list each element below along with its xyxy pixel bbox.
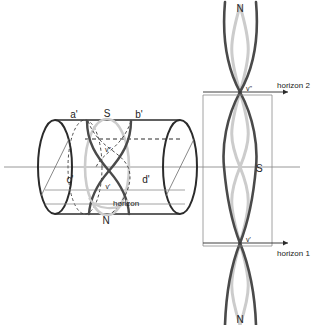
cylinder-label-a-prime: a' — [70, 109, 78, 120]
cylinder-label-b-prime: b' — [135, 109, 143, 120]
right-cap-chord — [166, 139, 194, 196]
horizon1-arrowhead-icon — [283, 241, 288, 246]
cylinder-label-v-prime: v' — [106, 183, 111, 190]
flat-label-horizon-1: horizon 1 — [277, 249, 310, 258]
horizon2-arrowhead-icon — [283, 90, 288, 95]
geometry-diagram: a' S b' c' d' v'' v' horizon N N S N v'' — [0, 0, 321, 325]
cylinder-label-d-prime: d' — [142, 174, 150, 185]
left-cap-chord — [41, 139, 69, 196]
flat-label-horizon-2: horizon 2 — [277, 81, 310, 90]
flat-label-v-prime: v' — [246, 236, 251, 243]
cylinder-label-N: N — [102, 215, 109, 226]
cylinder-label-c-prime: c' — [67, 174, 74, 185]
flat-projection-panel: N S N v'' v' horizon 2 horizon 1 — [203, 2, 310, 325]
flat-label-S: S — [256, 163, 263, 174]
light-sinusoid-right — [232, 6, 249, 325]
cylinder-label-S: S — [104, 108, 111, 119]
flat-label-v-double-prime: v'' — [246, 85, 252, 92]
diagram-canvas: a' S b' c' d' v'' v' horizon N N S N v'' — [0, 0, 321, 325]
flat-label-N-top: N — [236, 3, 243, 14]
cylinder-label-horizon: horizon — [113, 199, 139, 208]
cylinder-label-v-double-prime: v'' — [105, 146, 111, 153]
flat-label-N-bottom: N — [236, 314, 243, 325]
